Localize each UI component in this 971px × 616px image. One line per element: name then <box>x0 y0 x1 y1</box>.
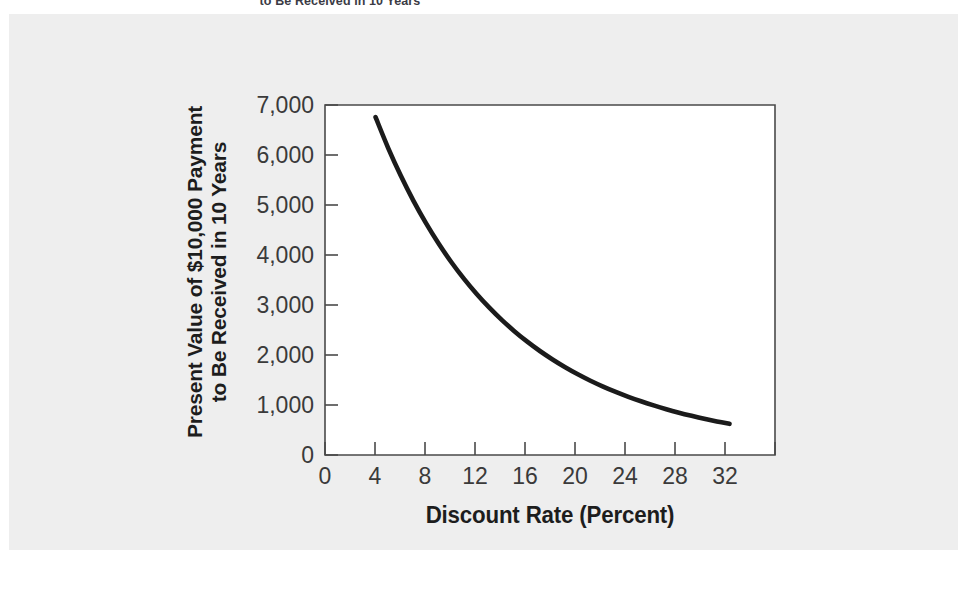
x-tick-label: 4 <box>369 463 382 490</box>
x-tickmarks <box>325 442 775 455</box>
x-tick-label: 0 <box>319 463 332 490</box>
y-tick-label: 2,000 <box>222 342 314 369</box>
x-tick-label: 8 <box>419 463 432 490</box>
y-tick-label: 7,000 <box>222 92 314 119</box>
y-tick-label: 1,000 <box>222 392 314 419</box>
y-tick-label: 3,000 <box>222 292 314 319</box>
y-axis-title: Present Value of $10,000 Payment to Be R… <box>183 92 230 452</box>
y-axis-tick-labels: 0 1,000 2,000 3,000 4,000 5,000 6,000 7,… <box>222 0 314 360</box>
x-tick-label: 20 <box>562 463 588 490</box>
x-axis-title: Discount Rate (Percent) <box>341 501 760 529</box>
x-tick-label: 24 <box>612 463 638 490</box>
present-value-chart: 0 1,000 2,000 3,000 4,000 5,000 6,000 7,… <box>0 0 971 616</box>
page-canvas: to Be Received in 10 Years <box>0 0 971 616</box>
y-tickmarks <box>325 105 338 455</box>
present-value-curve <box>376 117 730 424</box>
x-tick-label: 28 <box>662 463 688 490</box>
y-tick-label: 5,000 <box>222 192 314 219</box>
x-tick-label: 16 <box>512 463 538 490</box>
y-tick-label: 6,000 <box>222 142 314 169</box>
y-tick-label: 0 <box>222 442 314 469</box>
y-axis-title-line-1: Present Value of $10,000 Payment <box>183 92 207 452</box>
y-axis-title-line-2: to Be Received in 10 Years <box>207 92 231 452</box>
x-tick-label: 12 <box>462 463 488 490</box>
y-tick-label: 4,000 <box>222 242 314 269</box>
x-tick-label: 32 <box>712 463 738 490</box>
